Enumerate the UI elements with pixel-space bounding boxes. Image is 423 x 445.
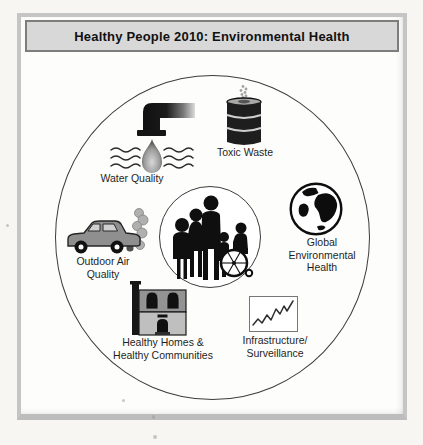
scan-speck (153, 435, 157, 439)
label-line: Surveillance (215, 347, 335, 360)
label-line: Health (272, 261, 372, 274)
trend-line (250, 297, 296, 330)
label-water-quality: Water Quality (82, 172, 182, 185)
trend-chart-icon (249, 296, 298, 332)
label-line: Toxic Waste (195, 146, 295, 159)
people-group-icon (160, 187, 260, 287)
label-line: Infrastructure/ (215, 334, 335, 347)
label-line: Water Quality (82, 172, 182, 185)
scan-speck (122, 399, 125, 402)
label-global-environmental-health: Global Environmental Health (272, 236, 372, 274)
label-infrastructure-surveillance: Infrastructure/ Surveillance (215, 334, 335, 359)
label-outdoor-air-quality: Outdoor Air Quality (53, 255, 153, 280)
house-icon (126, 281, 190, 337)
title-bar: Healthy People 2010: Environmental Healt… (25, 20, 399, 52)
community-circle (159, 186, 261, 288)
car-exhaust-icon (60, 206, 152, 258)
globe-icon (288, 181, 344, 237)
label-toxic-waste: Toxic Waste (195, 146, 295, 159)
label-line: Global (272, 236, 372, 249)
scan-speck (6, 224, 9, 227)
waste-barrel-icon (222, 84, 266, 148)
faucet-water-icon (103, 98, 198, 176)
label-line: Outdoor Air (53, 255, 153, 268)
label-line: Quality (53, 268, 153, 281)
figure: Healthy People 2010: Environmental Healt… (0, 0, 423, 445)
figure-title: Healthy People 2010: Environmental Healt… (74, 29, 350, 44)
label-line: Environmental (272, 249, 372, 262)
scan-speck (152, 415, 155, 419)
